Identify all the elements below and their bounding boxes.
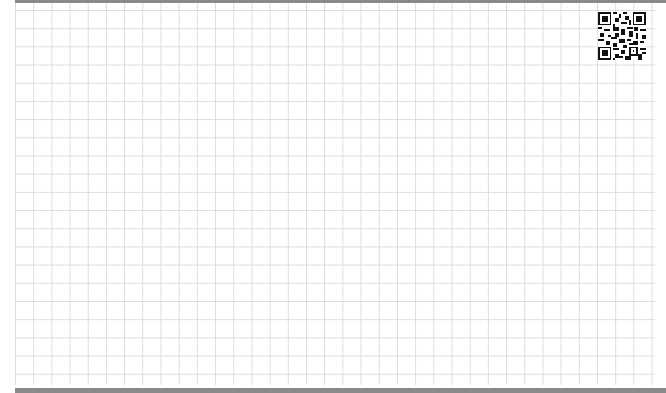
qr-code-icon <box>598 9 646 63</box>
grid-paper-area <box>15 3 655 385</box>
bottom-border <box>15 388 666 393</box>
